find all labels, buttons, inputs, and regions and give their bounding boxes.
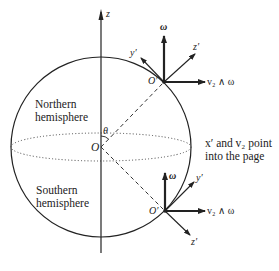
northern-label-line1: Northern: [35, 98, 77, 111]
upper-cross-label: v₂ ∧ ω: [207, 77, 234, 87]
lower-origin-dot: [163, 209, 167, 213]
southern-label-line1: Southern: [36, 184, 78, 197]
note-line2: into the page: [205, 150, 264, 163]
note-line1: x′ and v₂ point: [205, 137, 272, 150]
upper-zprime-arrow: [164, 54, 195, 82]
lower-origin-label: O′: [149, 206, 158, 216]
theta-arc: [101, 136, 109, 139]
lower-yprime-arrow: [165, 182, 194, 211]
lower-omega-label: ω: [169, 171, 176, 181]
upper-omega-label: ω: [160, 22, 167, 32]
upper-zprime-label: z′: [193, 42, 199, 52]
upper-origin-label: O′: [148, 76, 157, 86]
earth-frame-diagram: [0, 0, 279, 271]
lower-zprime-arrow: [165, 211, 190, 235]
lower-cross-label: v₂ ∧ ω: [207, 206, 234, 216]
lower-zprime-label: z′: [191, 237, 197, 247]
radius-to-upper-origin: [101, 82, 164, 147]
theta-label: θ: [103, 126, 108, 136]
center-label: O: [91, 141, 99, 154]
z-axis-label: z: [106, 9, 110, 19]
lower-yprime-label: y′: [196, 173, 203, 183]
northern-label-line2: hemisphere: [35, 111, 88, 124]
z-axis-arrowhead: [99, 9, 104, 20]
radius-to-lower-origin: [101, 147, 165, 211]
southern-label-line2: hemisphere: [36, 197, 89, 210]
upper-origin-dot: [162, 80, 166, 84]
upper-yprime-label: y′: [130, 48, 137, 58]
